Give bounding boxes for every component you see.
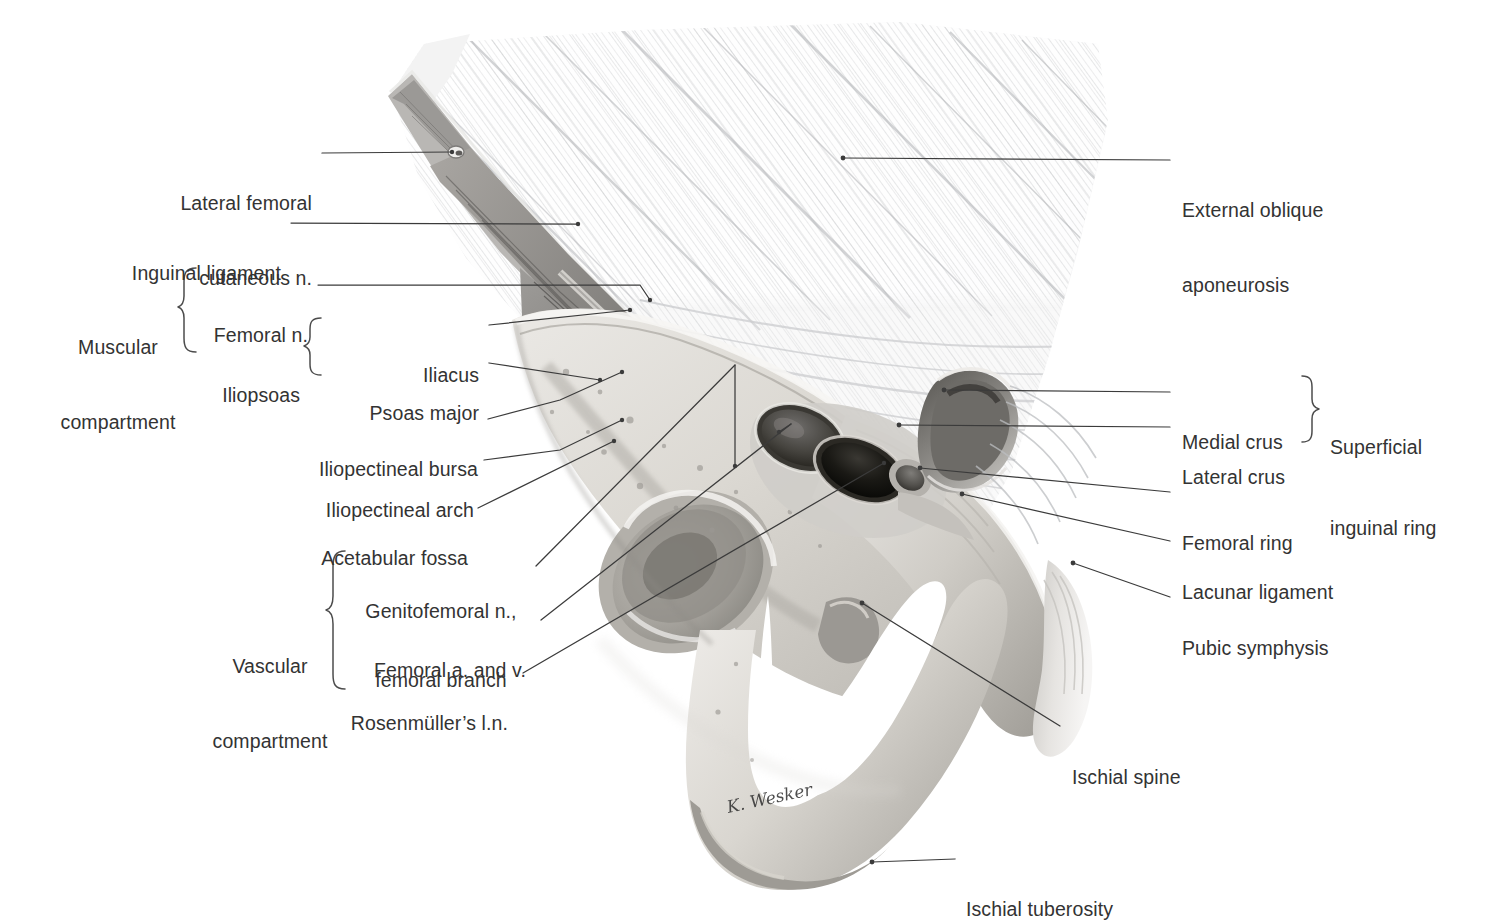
- label-line-1: External oblique: [1182, 198, 1482, 223]
- label-line-1: Pubic symphysis: [1182, 636, 1442, 661]
- label-ischial-spine: Ischial spine: [1072, 715, 1292, 840]
- label-external-oblique-aponeurosis: External oblique aponeurosis: [1182, 148, 1482, 348]
- label-line-1: Iliopsoas: [176, 383, 300, 408]
- label-line-2: inguinal ring: [1330, 515, 1496, 542]
- label-line-1: Rosenmüller’s l.n.: [336, 711, 508, 736]
- label-line-2: aponeurosis: [1182, 273, 1482, 298]
- label-line-1: Muscular: [56, 335, 180, 360]
- label-muscular-compartment: Muscular compartment: [56, 285, 180, 485]
- label-line-2: compartment: [56, 410, 180, 435]
- label-line-1: Ischial spine: [1072, 765, 1292, 790]
- label-pubic-symphysis: Pubic symphysis: [1182, 586, 1442, 711]
- label-ischial-tuberosity: Ischial tuberosity: [966, 847, 1226, 924]
- label-vascular-compartment: Vascular compartment: [208, 604, 332, 804]
- label-iliopsoas: Iliopsoas: [176, 333, 300, 458]
- label-line-2: compartment: [208, 729, 332, 754]
- label-rosenmullers-ln: Rosenmüller’s l.n.: [336, 661, 508, 786]
- label-line-1: Ischial tuberosity: [966, 897, 1226, 922]
- label-line-1: Superficial: [1330, 434, 1496, 461]
- label-superficial-inguinal-ring: Superficial inguinal ring: [1330, 380, 1496, 596]
- figure-canvas: Lateral femoral cutaneous n. Inguinal li…: [0, 0, 1496, 924]
- label-line-1: Vascular: [208, 654, 332, 679]
